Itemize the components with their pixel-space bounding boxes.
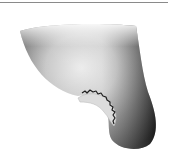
shaded-illustration [0,0,170,166]
